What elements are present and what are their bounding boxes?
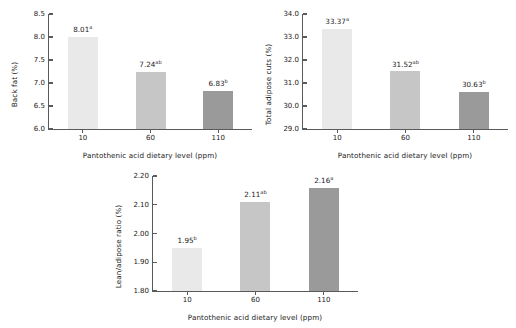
bar-significance-superscript: b xyxy=(225,78,228,84)
x-axis-title: Pantothenic acid dietary level (ppm) xyxy=(302,151,508,160)
x-axis-tick-label: 110 xyxy=(184,129,252,142)
bar-value-label: 2.11ab xyxy=(244,190,266,199)
bar[interactable]: 31.52ab xyxy=(390,71,420,129)
bar-slot: 30.63b xyxy=(440,14,508,129)
bar[interactable]: 33.37a xyxy=(322,29,352,130)
y-axis-tick-label: 34.0 xyxy=(283,10,303,18)
bar-slot: 7.24ab xyxy=(117,14,185,129)
x-axis-title: Pantothenic acid dietary level (ppm) xyxy=(152,313,358,322)
y-axis-tick-label: 32.0 xyxy=(283,56,303,64)
y-axis-title: Lean/adipose ratio (%) xyxy=(112,166,126,326)
bar[interactable]: 8.01a xyxy=(68,37,98,129)
bar-significance-superscript: ab xyxy=(413,58,419,64)
x-axis-tick-label: 60 xyxy=(221,291,289,304)
y-axis-title-label: Back fat (%) xyxy=(11,61,20,106)
y-axis-tick-label: 6.0 xyxy=(34,125,49,133)
y-axis-tick-label: 2.10 xyxy=(133,201,153,209)
y-axis-tick-label: 8.5 xyxy=(34,10,49,18)
bar-significance-superscript: ab xyxy=(260,189,266,195)
y-axis-title-label: Lean/adipose ratio (%) xyxy=(115,204,124,288)
bar-significance-superscript: a xyxy=(89,24,92,30)
x-axis-title: Pantothenic acid dietary level (ppm) xyxy=(48,151,252,160)
bar-value-label: 6.83b xyxy=(209,79,228,88)
y-axis-tick-label: 6.5 xyxy=(34,102,49,110)
bar-slot: 2.16a xyxy=(290,176,358,291)
bar-slot: 31.52ab xyxy=(371,14,439,129)
y-axis-tick-label: 1.90 xyxy=(133,258,153,266)
bar-significance-superscript: b xyxy=(482,79,485,85)
x-axis-tick-label: 60 xyxy=(117,129,185,142)
bar[interactable]: 7.24ab xyxy=(136,72,166,129)
y-axis-tick-label: 2.00 xyxy=(133,230,153,238)
bar-slot: 1.95b xyxy=(153,176,221,291)
y-axis-title: Total adipose cuts (%) xyxy=(262,4,276,164)
bar[interactable]: 1.95b xyxy=(172,248,202,291)
x-axis-tick-label: 60 xyxy=(371,129,439,142)
x-axis-tick-label: 10 xyxy=(303,129,371,142)
bar-value-label: 1.95b xyxy=(178,236,197,245)
bar-group: 1.95b2.11ab2.16a xyxy=(153,176,358,291)
bar-value-label: 2.16a xyxy=(314,176,333,185)
x-axis-tick-label: 10 xyxy=(49,129,117,142)
bar-significance-superscript: a xyxy=(330,175,333,181)
bar-value-label: 33.37a xyxy=(325,17,349,26)
chart-panel-total-adipose-cuts: Total adipose cuts (%) 34.033.032.031.03… xyxy=(262,4,512,164)
bar[interactable]: 6.83b xyxy=(203,91,233,129)
bar-value-label: 8.01a xyxy=(73,25,92,34)
bar-slot: 6.83b xyxy=(184,14,252,129)
chart-panel-back-fat: Back fat (%) 8.58.07.57.06.56.0 8.01a7.2… xyxy=(8,4,256,164)
plot-area: 34.033.032.031.030.029.0 33.37a31.52ab30… xyxy=(302,14,508,130)
y-axis-tick-label: 33.0 xyxy=(283,33,303,41)
x-axis-ticks: 1060110 xyxy=(153,291,358,304)
bar-group: 33.37a31.52ab30.63b xyxy=(303,14,508,129)
y-axis-title-label: Total adipose cuts (%) xyxy=(265,43,274,124)
bar[interactable]: 30.63b xyxy=(459,92,489,129)
y-axis-tick-label: 2.20 xyxy=(133,172,153,180)
y-axis-tick-label: 31.0 xyxy=(283,79,303,87)
bar-group: 8.01a7.24ab6.83b xyxy=(49,14,252,129)
y-axis-title: Back fat (%) xyxy=(8,4,22,164)
bar-value-label: 30.63b xyxy=(462,80,486,89)
bar-significance-superscript: a xyxy=(346,16,349,22)
x-axis-ticks: 1060110 xyxy=(49,129,252,142)
chart-panel-lean-adipose-ratio: Lean/adipose ratio (%) 2.202.102.001.901… xyxy=(112,166,362,326)
y-axis-tick-label: 1.80 xyxy=(133,287,153,295)
x-axis-tick-label: 110 xyxy=(290,291,358,304)
bar-slot: 8.01a xyxy=(49,14,117,129)
bar-significance-superscript: b xyxy=(194,235,197,241)
bar-slot: 33.37a xyxy=(303,14,371,129)
bar-value-label: 7.24ab xyxy=(139,60,161,69)
y-axis-tick-label: 29.0 xyxy=(283,125,303,133)
y-axis-tick-label: 7.5 xyxy=(34,56,49,64)
x-axis-ticks: 1060110 xyxy=(303,129,508,142)
bar[interactable]: 2.16a xyxy=(309,188,339,292)
bar[interactable]: 2.11ab xyxy=(240,202,270,291)
bar-slot: 2.11ab xyxy=(221,176,289,291)
y-axis-tick-label: 8.0 xyxy=(34,33,49,41)
y-axis-tick-label: 7.0 xyxy=(34,79,49,87)
bar-significance-superscript: ab xyxy=(155,59,161,65)
y-axis-tick-label: 30.0 xyxy=(283,102,303,110)
plot-area: 8.58.07.57.06.56.0 8.01a7.24ab6.83b 1060… xyxy=(48,14,252,130)
plot-area: 2.202.102.001.901.80 1.95b2.11ab2.16a 10… xyxy=(152,176,358,292)
x-axis-tick-label: 10 xyxy=(153,291,221,304)
bar-value-label: 31.52ab xyxy=(392,60,419,69)
x-axis-tick-label: 110 xyxy=(440,129,508,142)
